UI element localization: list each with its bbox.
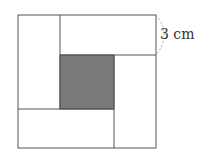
diagram-canvas xyxy=(0,0,204,157)
center-shaded-square xyxy=(60,55,114,109)
dimension-label: 3 cm xyxy=(160,26,194,42)
